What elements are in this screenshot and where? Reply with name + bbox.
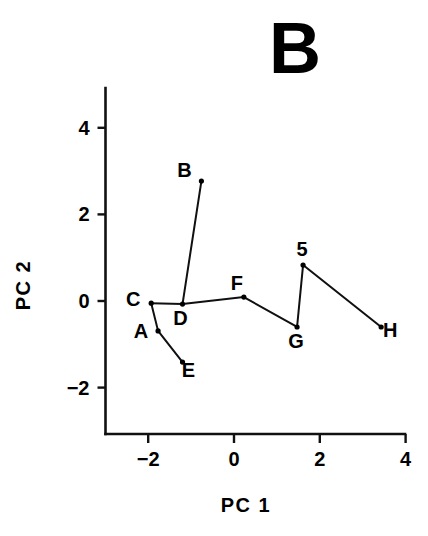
x-tick-label: 4 [400, 448, 412, 470]
point-label-E: E [182, 359, 195, 381]
y-tick-label: 4 [78, 117, 90, 139]
y-tick-label: 0 [78, 290, 89, 312]
connector-C-A [151, 303, 158, 331]
point-labels: ABCDEFGH5 [126, 159, 397, 381]
connector-D-B [183, 181, 202, 304]
x-tick-label: 2 [314, 448, 325, 470]
series-lines [151, 181, 381, 362]
point-label-F: F [231, 272, 243, 294]
data-point-B [199, 178, 204, 183]
connector-G-5 [297, 265, 303, 327]
connector-D-F [183, 297, 244, 304]
connector-5-H [303, 265, 381, 327]
data-point-F [241, 295, 246, 300]
y-tick-label: 2 [78, 203, 89, 225]
point-label-5: 5 [297, 238, 308, 260]
connector-F-G [244, 297, 297, 327]
data-point-D [180, 301, 185, 306]
point-label-D: D [173, 307, 187, 329]
point-label-H: H [383, 319, 397, 341]
data-points [149, 178, 384, 364]
data-point-G [294, 324, 299, 329]
data-point-5 [300, 262, 305, 267]
y-tick-label: −2 [67, 377, 90, 399]
axes [98, 88, 406, 443]
x-tick-label: 0 [228, 448, 239, 470]
point-label-A: A [134, 320, 148, 342]
point-label-C: C [126, 288, 140, 310]
connector-A-E [158, 331, 182, 362]
point-label-B: B [177, 159, 191, 181]
x-axis-title: PC 1 [221, 494, 271, 516]
scatter-plot-svg: ABCDEFGH5 −2024−2024 PC 1 PC 2 B [0, 0, 428, 536]
point-label-G: G [288, 330, 304, 352]
figure-panel: ABCDEFGH5 −2024−2024 PC 1 PC 2 B [0, 0, 428, 536]
x-tick-label: −2 [137, 448, 160, 470]
connector-C-D [151, 303, 182, 304]
y-axis-title: PC 2 [12, 260, 34, 310]
panel-title: B [269, 8, 321, 88]
data-point-A [155, 328, 160, 333]
data-point-C [149, 301, 154, 306]
